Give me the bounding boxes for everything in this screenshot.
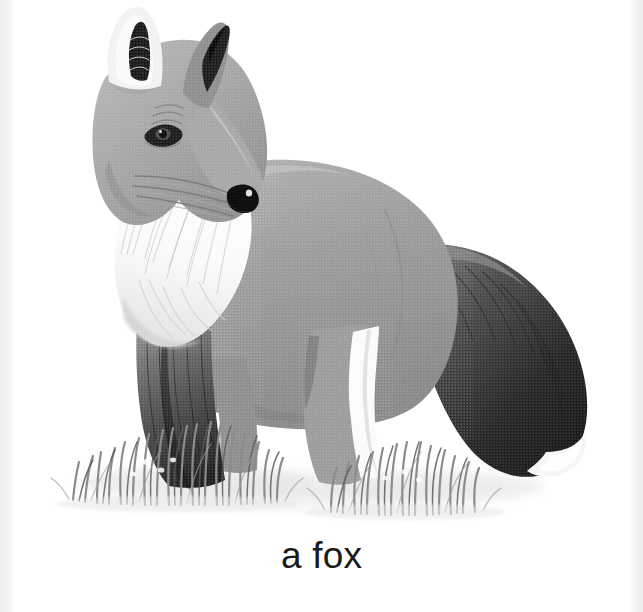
page-margin-left [0,0,13,612]
page-margin-right [630,0,643,612]
flashcard: a fox [0,0,643,612]
fox-illustration [13,0,630,536]
caption-text: a fox [0,534,643,578]
